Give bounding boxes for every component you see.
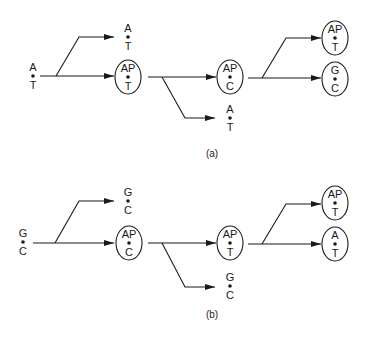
- arrow-a-start-to-gen1-up: [56, 37, 114, 76]
- base-pair-b-gen2-mid: AP T: [217, 226, 243, 260]
- base-top: A: [124, 22, 132, 34]
- base-pair-a-gen3-low: G C: [322, 62, 348, 96]
- base-pair-a-start: A T: [29, 61, 37, 91]
- base-top: AP: [223, 62, 238, 74]
- base-bottom: C: [226, 289, 234, 301]
- pair-dot: [21, 240, 25, 244]
- base-bottom: T: [227, 121, 234, 133]
- pair-dot: [228, 241, 232, 245]
- arrow-a-gen1-to-gen2-low: [162, 77, 215, 118]
- base-pair-a-gen2-mid: AP C: [217, 60, 243, 94]
- base-bottom: C: [226, 80, 234, 92]
- base-top: G: [226, 271, 235, 283]
- base-bottom: T: [332, 206, 339, 218]
- base-pair-a-gen3-up: AP T: [322, 21, 348, 55]
- panel-a-connectors: [40, 37, 321, 118]
- pair-dot: [127, 241, 131, 245]
- base-bottom: T: [227, 246, 234, 258]
- base-pair-b-gen1-mid: AP C: [116, 226, 142, 260]
- base-top: G: [124, 186, 133, 198]
- base-top: A: [29, 61, 37, 73]
- base-bottom: T: [332, 247, 339, 259]
- base-bottom: C: [331, 82, 339, 94]
- pair-dot: [228, 116, 232, 120]
- pair-dot: [126, 199, 130, 203]
- base-pair-b-gen3-low: A T: [322, 227, 348, 261]
- pair-dot: [333, 77, 337, 81]
- pair-dot: [333, 36, 337, 40]
- panel-b: G C G C AP C AP T G C: [19, 186, 348, 320]
- base-bottom: C: [124, 204, 132, 216]
- arrow-a-gen2-to-gen3-up: [262, 38, 321, 78]
- base-top: AP: [122, 228, 137, 240]
- pair-dot: [228, 75, 232, 79]
- base-pair-b-gen2-low: G C: [226, 271, 235, 301]
- base-pair-b-gen1-up: G C: [124, 186, 133, 216]
- base-top: AP: [328, 188, 343, 200]
- arrow-b-start-to-gen1-up: [55, 201, 114, 243]
- base-bottom: T: [30, 79, 37, 91]
- base-pair-a-gen1-mid: AP T: [115, 60, 141, 94]
- pair-dot: [126, 35, 130, 39]
- arrow-b-gen2-to-gen3-up: [262, 204, 321, 244]
- base-pair-b-gen3-up: AP T: [322, 186, 348, 220]
- base-top: G: [19, 227, 28, 239]
- base-pair-a-gen2-low: A T: [226, 103, 234, 133]
- base-bottom: T: [125, 80, 132, 92]
- base-bottom: T: [125, 40, 132, 52]
- base-bottom: C: [19, 245, 27, 257]
- base-top: AP: [223, 228, 238, 240]
- base-top: G: [331, 64, 340, 76]
- panel-b-connectors: [33, 201, 321, 287]
- pair-dot: [333, 201, 337, 205]
- panel-a: A T A T AP T AP C A T: [29, 21, 348, 159]
- pair-dot: [333, 242, 337, 246]
- base-bottom: C: [125, 246, 133, 258]
- panel-b-caption: (b): [206, 309, 218, 320]
- base-pair-a-gen1-up: A T: [124, 22, 132, 52]
- base-top: AP: [121, 62, 136, 74]
- base-top: A: [226, 103, 234, 115]
- base-top: A: [331, 229, 339, 241]
- base-bottom: T: [332, 41, 339, 53]
- base-top: AP: [328, 23, 343, 35]
- pair-dot: [31, 74, 35, 78]
- panel-a-caption: (a): [206, 148, 218, 159]
- pair-dot: [228, 284, 232, 288]
- replication-diagram: A T A T AP T AP C A T: [0, 0, 370, 338]
- pair-dot: [126, 75, 130, 79]
- arrow-b-gen1-to-gen2-low: [162, 243, 215, 287]
- base-pair-b-start: G C: [19, 227, 28, 257]
